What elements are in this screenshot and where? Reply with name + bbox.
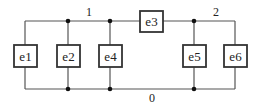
node-label-1: 1 <box>86 5 92 19</box>
junction-dot <box>66 87 71 92</box>
junction-dot <box>108 19 113 24</box>
circuit-diagram: e1 e2 e4 e3 e5 e6 1 2 0 <box>0 0 256 110</box>
element-label: e6 <box>229 49 242 64</box>
junction-dot <box>192 19 197 24</box>
element-label: e2 <box>62 49 74 64</box>
element-e1: e1 <box>14 45 37 67</box>
element-e3: e3 <box>140 11 163 32</box>
junction-dot <box>108 87 113 92</box>
junction-dot <box>192 87 197 92</box>
node-label-2: 2 <box>213 5 219 19</box>
element-e5: e5 <box>183 45 206 67</box>
element-e6: e6 <box>224 45 247 67</box>
element-e4: e4 <box>99 45 122 67</box>
element-label: e1 <box>19 49 31 64</box>
junction-dot <box>66 19 71 24</box>
element-label: e5 <box>188 49 200 64</box>
element-e2: e2 <box>57 45 80 67</box>
element-label: e3 <box>145 14 157 29</box>
node-label-0: 0 <box>149 91 155 105</box>
element-label: e4 <box>104 49 117 64</box>
